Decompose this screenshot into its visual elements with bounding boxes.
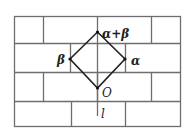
vertex-right-dot — [123, 57, 126, 60]
brick-lattice-diagram — [0, 0, 191, 136]
label-origin-O: O — [102, 87, 112, 99]
vertex-left-dot — [68, 57, 71, 60]
vertex-bottom-dot — [96, 86, 99, 89]
label-alpha: α — [131, 55, 140, 67]
label-line-l: l — [101, 108, 105, 120]
label-alpha-plus-beta: α+β — [102, 28, 129, 40]
label-beta: β — [57, 54, 65, 66]
vertex-top-dot — [96, 30, 99, 33]
